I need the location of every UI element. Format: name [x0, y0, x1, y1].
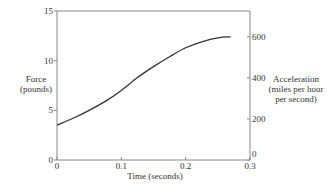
force-curve	[57, 37, 231, 125]
y-tick-label-right: 200	[252, 114, 266, 124]
y-tick-label-left: 15	[44, 6, 54, 16]
x-tick-label: 0.2	[180, 161, 191, 171]
y-axis-label-right: Acceleration (miles per hour per second)	[264, 74, 328, 104]
y-axis-label-right-line2: (miles per hour	[264, 84, 328, 94]
y-tick-label-right: 0	[252, 149, 257, 159]
y-axis-label-left-line1: Force	[14, 74, 58, 84]
y-tick-label-left: 5	[49, 105, 54, 115]
x-tick-label: 0.3	[244, 161, 256, 171]
x-tick-label: 0.1	[116, 161, 127, 171]
x-axis-label: Time (seconds)	[120, 171, 190, 181]
y-tick-label-left: 0	[49, 155, 54, 165]
y-axis-label-left: Force (pounds)	[14, 74, 58, 94]
y-tick-label-right: 600	[252, 32, 266, 42]
y-axis-label-right-line3: per second)	[264, 94, 328, 104]
x-tick-label: 0	[55, 161, 60, 171]
y-axis-label-right-line1: Acceleration	[264, 74, 328, 84]
y-tick-label-left: 10	[44, 56, 54, 66]
y-axis-label-left-line2: (pounds)	[14, 84, 58, 94]
